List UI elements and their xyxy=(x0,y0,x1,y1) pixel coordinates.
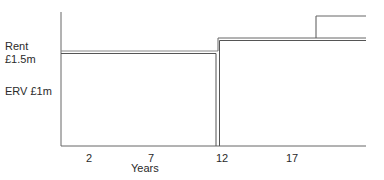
rent-label: Rent xyxy=(5,40,28,52)
chart-plot-area xyxy=(0,0,384,180)
rent-value-label: £1.5m xyxy=(5,53,36,65)
x-tick-2: 2 xyxy=(86,152,92,164)
x-tick-12: 12 xyxy=(216,152,228,164)
erv-label: ERV £1m xyxy=(5,85,52,97)
x-axis-label: Years xyxy=(131,162,159,174)
x-tick-17: 17 xyxy=(286,152,298,164)
